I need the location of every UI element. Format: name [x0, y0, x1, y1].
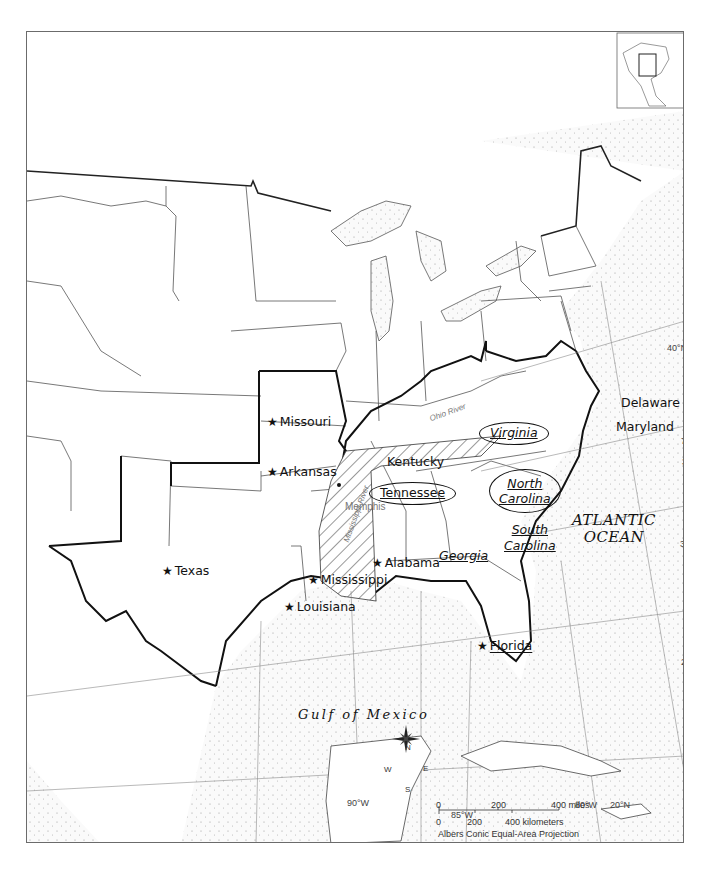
- label-texas: ★Texas: [162, 565, 209, 578]
- map-frame: ★Missouri ★Arkansas ★Texas ★Louisiana ★M…: [26, 31, 684, 843]
- scale-km-400: 400 kilometers: [505, 818, 564, 827]
- scale-miles-400: 400 miles: [551, 801, 590, 810]
- projection-note: Albers Conic Equal-Area Projection: [438, 830, 579, 839]
- label-lon-70: 70°W: [681, 437, 684, 446]
- scale-miles-0: 0: [436, 801, 441, 810]
- label-atlantic-ocean: ATLANTIC OCEAN: [572, 512, 656, 547]
- star-icon: ★: [267, 465, 278, 479]
- label-louisiana: ★Louisiana: [284, 601, 356, 614]
- scale-km-0: 0: [436, 818, 441, 827]
- label-lon-90: 90°W: [347, 799, 369, 808]
- label-kentucky: Kentucky: [387, 456, 444, 469]
- compass-e: E: [423, 765, 428, 773]
- us-canada-border: [27, 171, 331, 211]
- label-lat-30: 30°N: [680, 540, 684, 549]
- label-lat-40: 40°N: [667, 344, 684, 353]
- label-alabama: ★Alabama: [372, 557, 440, 570]
- compass-w: W: [384, 766, 392, 774]
- star-icon: ★: [477, 639, 488, 653]
- scale-miles-200: 200: [491, 801, 506, 810]
- label-south-carolina: South Carolina: [504, 522, 556, 553]
- label-maryland: Maryland: [616, 421, 674, 434]
- star-icon: ★: [162, 564, 173, 578]
- label-florida: ★Florida: [477, 640, 532, 653]
- inset-locator-map: [617, 33, 684, 108]
- label-gulf-of-mexico: Gulf of Mexico: [298, 708, 429, 721]
- label-lat-20: 20°N: [610, 801, 630, 810]
- compass-s: S: [405, 786, 410, 794]
- label-arkansas: ★Arkansas: [267, 466, 337, 479]
- compass-n: N: [405, 744, 411, 752]
- scale-km-200: 200: [467, 818, 482, 827]
- label-lat-35: 35°N: [682, 458, 684, 467]
- label-north-carolina: North Carolina: [489, 469, 561, 513]
- label-georgia: Georgia: [439, 550, 488, 563]
- star-icon: ★: [372, 556, 383, 570]
- label-delaware: Delaware: [621, 397, 680, 410]
- label-missouri: ★Missouri: [267, 416, 331, 429]
- star-icon: ★: [284, 600, 295, 614]
- label-lat-25: 25°N: [681, 658, 684, 667]
- memphis-dot: [337, 483, 341, 487]
- star-icon: ★: [308, 573, 319, 587]
- star-icon: ★: [267, 415, 278, 429]
- label-mississippi: ★Mississippi: [308, 574, 387, 587]
- label-virginia: Virginia: [479, 422, 549, 445]
- label-memphis: Memphis: [345, 502, 386, 512]
- great-lakes: [331, 201, 536, 341]
